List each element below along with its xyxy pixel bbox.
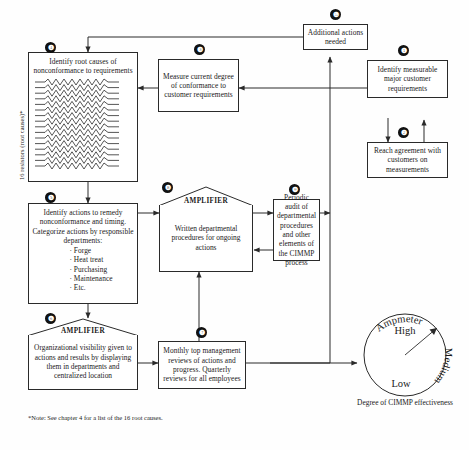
node-9-label: Periodic audit of departmental procedure… bbox=[276, 193, 317, 267]
node-7-monthly-reviews[interactable]: Monthly top management reviews of action… bbox=[158, 341, 246, 389]
badge-3: ❸ bbox=[194, 44, 205, 55]
badge-10: ❿ bbox=[330, 9, 341, 20]
amplifier-label-6: AMPLIFIER bbox=[28, 327, 138, 335]
department-item-maintenance: · Maintenance bbox=[69, 274, 112, 283]
node-4-identify-root-causes[interactable]: Identify root causes of nonconformance t… bbox=[28, 52, 138, 182]
amplifier-label-8: AMPLIFIER bbox=[159, 197, 253, 205]
node-3-measure-conformance[interactable]: Measure current degree of conformance to… bbox=[158, 59, 239, 112]
node-8-label: Written departmental procedures for ongo… bbox=[163, 224, 249, 252]
node-5-label: Identify actions to remedy nonconformanc… bbox=[31, 208, 135, 245]
node-5-identify-actions[interactable]: Identify actions to remedy nonconformanc… bbox=[28, 203, 138, 304]
node-2-label: Reach agreement with customers on measur… bbox=[370, 146, 445, 174]
node-2-reach-agreement[interactable]: Reach agreement with customers on measur… bbox=[367, 142, 448, 178]
node-7-label: Monthly top management reviews of action… bbox=[161, 346, 243, 383]
node-10-label: Additional actions needed bbox=[306, 28, 365, 47]
badge-5: ❺ bbox=[45, 192, 56, 203]
gauge-caption: Degree of CIMMP effectiveness bbox=[335, 398, 469, 407]
footnote-root-causes: *Note: See chapter 4 for a list of the 1… bbox=[28, 414, 163, 421]
resistor-array-icon bbox=[31, 78, 135, 170]
badge-7: ❼ bbox=[196, 327, 207, 338]
badge-1: ❶ bbox=[398, 45, 409, 56]
node-6-body: Organizational visibility given to actio… bbox=[28, 335, 138, 390]
badge-4: ❹ bbox=[45, 42, 56, 53]
department-item-etc: · Etc. bbox=[69, 283, 112, 292]
node-1-identify-measurable-requirements[interactable]: Identify measurable major customer requi… bbox=[367, 60, 448, 98]
gauge-dial-icon: Ampmeter Medium High Low bbox=[355, 303, 455, 403]
node-6-organizational-visibility-amplifier[interactable]: AMPLIFIER Organizational visibility give… bbox=[28, 318, 138, 390]
gauge-high-text: High bbox=[395, 325, 417, 336]
department-list: · Forge · Heat treat · Purchasing · Main… bbox=[53, 246, 112, 292]
node-10-additional-actions-needed[interactable]: Additional actions needed bbox=[303, 24, 368, 50]
node-3-label: Measure current degree of conformance to… bbox=[161, 72, 236, 100]
node-9-periodic-audit[interactable]: Periodic audit of departmental procedure… bbox=[273, 199, 320, 261]
department-item-heat-treat: · Heat treat bbox=[69, 255, 112, 264]
badge-9: ❾ bbox=[289, 184, 300, 195]
node-6-label: Organizational visibility given to actio… bbox=[32, 343, 134, 381]
gauge-low-text: Low bbox=[391, 378, 411, 389]
node-8-body: Written departmental procedures for ongo… bbox=[159, 205, 253, 272]
resistors-side-label: 16 resistors (root causes)* bbox=[18, 110, 25, 180]
diagram-canvas: ❿ Additional actions needed ❶ Identify m… bbox=[0, 0, 469, 450]
node-1-label: Identify measurable major customer requi… bbox=[370, 65, 445, 93]
node-4-label: Identify root causes of nonconformance t… bbox=[31, 57, 135, 76]
node-8-written-procedures-amplifier[interactable]: AMPLIFIER Written departmental procedure… bbox=[159, 186, 253, 272]
badge-8: ❽ bbox=[162, 182, 173, 193]
cimmp-effectiveness-gauge: Ampmeter Medium High Low bbox=[355, 303, 455, 403]
badge-2: ❷ bbox=[398, 127, 409, 138]
department-item-forge: · Forge bbox=[69, 246, 112, 255]
department-item-purchasing: · Purchasing bbox=[69, 265, 112, 274]
badge-6: ❻ bbox=[45, 313, 56, 324]
